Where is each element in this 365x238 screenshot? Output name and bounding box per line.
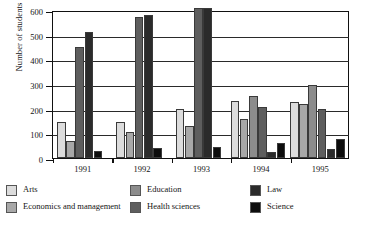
bar-economics-and-management-1995 [299,104,308,159]
legend-label: Economics and management [23,201,121,212]
bar-law-1995 [327,149,336,158]
bar-law-1994 [267,152,276,158]
y-axis-tick-label: 400 [30,56,43,66]
bar-chart: Number of students 010020030040050060019… [0,0,365,238]
bar-health-sciences-1991 [75,47,84,158]
bar-science-1992 [153,148,162,158]
y-axis-tick [46,12,53,13]
x-axis-tick [112,158,113,163]
bar-arts-1995 [290,102,299,158]
bar-group: 1994 [231,12,290,158]
legend-column-3: LawScience [250,184,360,218]
bar-arts-1991 [57,122,66,158]
bar-health-sciences-1992 [135,17,144,158]
y-axis-tick [46,160,53,161]
y-axis-tick [46,111,53,112]
plot-area: 010020030040050060019911992199319941995 [52,11,349,159]
x-axis-tick [291,158,292,163]
x-axis-label-1994: 1994 [252,164,269,174]
bar-economics-and-management-1994 [240,119,249,158]
bar-science-1993 [213,147,222,158]
y-axis-tick-label: 500 [30,32,43,42]
bar-education-1994 [249,96,258,158]
bar-health-sciences-1995 [318,109,327,158]
bar-science-1994 [277,143,286,158]
legend-column-2: EducationHealth sciences [130,184,256,218]
y-axis-title: Number of students [14,0,24,97]
x-axis-label-1995: 1995 [312,164,329,174]
y-axis-tick-label: 600 [30,7,43,17]
bar-law-1991 [85,32,94,158]
y-axis-tick [46,61,53,62]
x-axis-label-1992: 1992 [134,164,151,174]
x-axis-label-1991: 1991 [74,164,91,174]
bar-group: 1993 [172,12,231,158]
legend-item-health-sciences: Health sciences [130,201,256,213]
y-axis-tick-label: 100 [30,130,43,140]
legend-label: Science [267,201,293,212]
legend-label: Education [147,184,181,195]
legend-label: Law [267,184,282,195]
bar-group: 1992 [112,12,171,158]
bar-arts-1993 [176,109,185,158]
bar-science-1991 [94,151,103,158]
legend-swatch-icon [130,202,141,213]
bar-science-1995 [336,139,345,158]
legend-swatch-icon [250,202,261,213]
legend-item-law: Law [250,184,360,196]
bar-economics-and-management-1991 [66,141,75,158]
bar-arts-1992 [116,122,125,158]
legend-item-education: Education [130,184,256,196]
x-axis-label-1993: 1993 [193,164,210,174]
x-axis-tick [172,158,173,163]
chart-legend: ArtsEconomics and management EducationHe… [6,184,359,236]
bar-group: 1995 [291,12,350,158]
legend-item-science: Science [250,201,360,213]
legend-item-economics-and-management: Economics and management [6,201,134,213]
legend-swatch-icon [250,185,261,196]
legend-swatch-icon [6,185,17,196]
x-axis-tick [53,158,54,163]
bar-arts-1994 [231,101,240,158]
bar-economics-and-management-1993 [185,126,194,158]
legend-swatch-icon [130,185,141,196]
legend-label: Health sciences [147,201,200,212]
y-axis-tick-label: 0 [39,155,43,165]
y-axis-tick [46,86,53,87]
y-axis-tick [46,135,53,136]
legend-swatch-icon [6,202,17,213]
bar-health-sciences-1994 [258,107,267,158]
x-axis-tick [231,158,232,163]
legend-label: Arts [23,184,38,195]
bar-education-1995 [308,85,317,159]
legend-column-1: ArtsEconomics and management [6,184,134,218]
bar-economics-and-management-1992 [126,132,135,158]
bar-health-sciences-1993 [194,8,203,158]
legend-item-arts: Arts [6,184,134,196]
y-axis-tick [46,37,53,38]
y-axis-tick-label: 200 [30,106,43,116]
y-axis-tick-label: 300 [30,81,43,91]
bar-law-1992 [144,15,153,158]
bar-law-1993 [203,8,212,158]
bar-group: 1991 [53,12,112,158]
